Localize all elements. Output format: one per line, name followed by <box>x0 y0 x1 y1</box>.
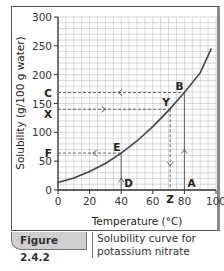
point-label-d: D <box>124 177 133 189</box>
y-tick-label: 300 <box>32 11 52 23</box>
point-label-b: B <box>175 80 183 92</box>
y-tick-label: 200 <box>32 69 52 81</box>
point-label-z: Z <box>166 193 174 205</box>
point-label-a: A <box>188 177 197 189</box>
x-tick-label: 60 <box>146 195 159 207</box>
point-labels: ABCDEFXYZ <box>44 80 197 205</box>
solubility-chart: 050100150200250300020406080100 ABCDEFXYZ… <box>0 0 224 232</box>
point-label-x: X <box>44 108 52 120</box>
y-axis-label: Solubility (g/100 g water) <box>14 36 26 169</box>
point-label-e: E <box>113 141 120 153</box>
x-tick-label: 100 <box>206 195 224 207</box>
y-tick-label: 0 <box>45 184 52 196</box>
x-tick-label: 0 <box>55 195 62 207</box>
chart-grid <box>58 17 216 190</box>
figure-number: Figure 2.4.2 <box>11 232 87 250</box>
y-tick-label: 100 <box>32 126 52 138</box>
x-tick-label: 20 <box>83 195 96 207</box>
x-axis-label: Temperature (°C) <box>91 215 183 227</box>
y-tick-label: 250 <box>32 40 52 52</box>
point-label-y: Y <box>161 96 170 108</box>
figure-caption: Solubility curve for potassium nitrate <box>92 232 224 258</box>
x-tick-label: 40 <box>115 195 128 207</box>
x-tick-label: 80 <box>178 195 191 207</box>
point-label-f: F <box>45 147 52 159</box>
point-label-c: C <box>44 87 52 99</box>
